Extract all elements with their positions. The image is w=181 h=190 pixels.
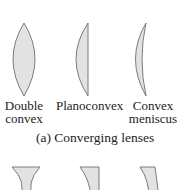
planoconvex-lens <box>76 23 88 96</box>
lens-diagram <box>0 0 181 190</box>
convex-meniscus-label-line2: meniscus <box>124 112 181 125</box>
double-concave-lens <box>12 167 40 190</box>
double-convex-label-line2: convex <box>2 112 46 125</box>
convex-meniscus-label: Convex meniscus <box>124 99 181 125</box>
planoconvex-label: Planoconvex <box>56 99 122 112</box>
double-convex-label: Double convex <box>2 99 46 125</box>
planoconvex-label-line1: Planoconvex <box>56 99 122 112</box>
double-convex-lens <box>13 23 35 96</box>
concave-meniscus-lens <box>140 167 159 190</box>
planoconcave-lens <box>80 167 99 190</box>
converging-lenses-caption: (a) Converging lenses <box>36 131 154 145</box>
convex-meniscus-lens <box>136 23 147 96</box>
